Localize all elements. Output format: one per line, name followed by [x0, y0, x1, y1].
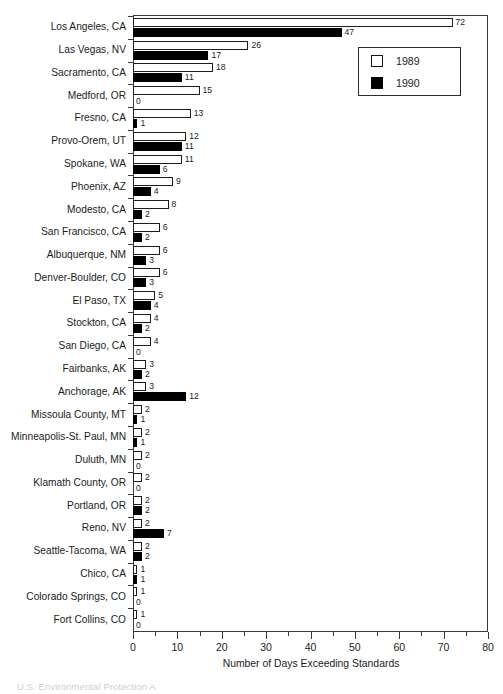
legend-label-1990: 1990 [396, 77, 420, 89]
chart-row: Seattle-Tacoma, WA22 [133, 540, 489, 563]
y-axis-tick [128, 289, 133, 290]
legend-item-1990: 1990 [371, 77, 420, 89]
x-axis-tick-label: 30 [260, 641, 272, 653]
chart-legend: 1989 1990 [358, 47, 461, 96]
chart-row: Missoula County, MT21 [133, 403, 489, 426]
bar-value-label: 0 [136, 462, 141, 471]
bar-1989 [133, 200, 169, 209]
bar-value-label: 17 [211, 51, 221, 60]
category-label: Colorado Springs, CO [1, 591, 133, 602]
bar-value-label: 1 [140, 587, 145, 596]
category-label: San Diego, CA [1, 340, 133, 351]
category-label: Anchorage, AK [1, 386, 133, 397]
bar-1990 [133, 575, 137, 584]
bar-1989 [133, 177, 173, 186]
bar-1989 [133, 473, 142, 482]
bar-1990 [133, 187, 151, 196]
bar-value-label: 1 [140, 575, 145, 584]
y-axis-tick [128, 221, 133, 222]
x-axis-tick-minor [466, 632, 467, 636]
chart-row: Klamath County, OR20 [133, 472, 489, 495]
y-axis-tick [128, 175, 133, 176]
bar-1989 [133, 360, 146, 369]
x-axis-tick-label: 0 [130, 641, 136, 653]
bar-1989 [133, 314, 151, 323]
legend-item-1989: 1989 [371, 55, 420, 67]
bar-1990 [133, 256, 146, 265]
legend-label-1989: 1989 [396, 55, 420, 67]
bar-1989 [133, 519, 142, 528]
x-axis-tick-minor [421, 632, 422, 636]
chart-row: Portland, OR22 [133, 494, 489, 517]
chart-row: El Paso, TX54 [133, 289, 489, 312]
category-label: Medford, OR [1, 90, 133, 101]
bar-value-label: 2 [145, 473, 150, 482]
y-axis-tick [128, 153, 133, 154]
category-label: El Paso, TX [1, 295, 133, 306]
bar-1990 [133, 165, 160, 174]
y-axis-tick [128, 472, 133, 473]
bar-1990 [133, 28, 342, 37]
bar-1989 [133, 41, 248, 50]
bar-1990 [133, 119, 137, 128]
x-axis-tick-label: 70 [438, 641, 450, 653]
bar-1989 [133, 268, 160, 277]
chart-row: Fort Collins, CO10 [133, 608, 489, 631]
bar-value-label: 3 [149, 382, 154, 391]
x-axis-tick-major [399, 632, 400, 639]
y-axis-tick [128, 335, 133, 336]
category-label: Seattle-Tacoma, WA [1, 545, 133, 556]
bar-1989 [133, 610, 137, 619]
x-axis-tick-label: 40 [305, 641, 317, 653]
x-axis-tick-label: 20 [216, 641, 228, 653]
bar-value-label: 12 [189, 392, 199, 401]
y-axis-tick [128, 107, 133, 108]
y-axis-tick [128, 380, 133, 381]
bar-value-label: 1 [140, 415, 145, 424]
y-axis-tick [128, 312, 133, 313]
y-axis-tick [128, 449, 133, 450]
chart-row: Spokane, WA116 [133, 153, 489, 176]
x-axis-tick-major [266, 632, 267, 639]
bar-value-label: 7 [167, 529, 172, 538]
category-label: Stockton, CA [1, 317, 133, 328]
y-axis-tick [128, 494, 133, 495]
bar-value-label: 6 [163, 223, 168, 232]
bar-value-label: 1 [140, 610, 145, 619]
bar-1989 [133, 109, 191, 118]
category-label: Provo-Orem, UT [1, 135, 133, 146]
bar-1989 [133, 132, 186, 141]
bar-1989 [133, 382, 146, 391]
chart-row: San Diego, CA40 [133, 335, 489, 358]
chart-row: Colorado Springs, CO10 [133, 585, 489, 608]
bar-1989 [133, 63, 213, 72]
chart-row: Albuquerque, NM63 [133, 244, 489, 267]
x-axis-tick-major [133, 632, 134, 639]
bar-value-label: 0 [136, 484, 141, 493]
bar-value-label: 11 [185, 73, 194, 82]
category-label: Denver-Boulder, CO [1, 272, 133, 283]
y-axis-tick [128, 358, 133, 359]
bar-1989 [133, 246, 160, 255]
bar-1989 [133, 86, 200, 95]
bar-value-label: 2 [145, 405, 150, 414]
chart-row: Fairbanks, AK32 [133, 358, 489, 381]
bar-value-label: 15 [203, 86, 213, 95]
y-axis-tick [128, 403, 133, 404]
chart-row: San Francisco, CA62 [133, 221, 489, 244]
category-label: Fresno, CA [1, 112, 133, 123]
x-axis-tick-major [222, 632, 223, 639]
bar-value-label: 6 [163, 268, 168, 277]
y-axis-tick [128, 39, 133, 40]
bar-1990 [133, 552, 142, 561]
figure-caption: U.S. Environmental Protection A [17, 681, 156, 692]
bar-value-label: 1 [140, 438, 145, 447]
x-axis-tick-major [488, 632, 489, 639]
x-axis-tick-minor [377, 632, 378, 636]
x-axis-tick-label: 10 [172, 641, 184, 653]
chart-rows-container: Los Angeles, CA7247Las Vegas, NV2617Sacr… [133, 16, 489, 631]
bar-1990 [133, 506, 142, 515]
bar-value-label: 26 [251, 41, 261, 50]
category-label: Fort Collins, CO [1, 614, 133, 625]
bar-value-label: 4 [154, 301, 159, 310]
